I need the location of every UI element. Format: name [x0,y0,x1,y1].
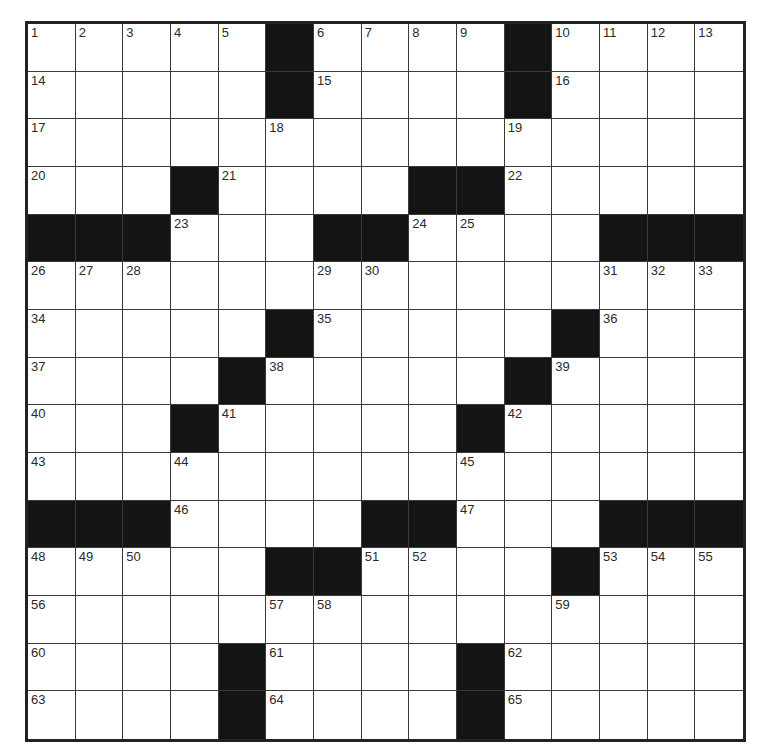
grid-cell[interactable]: 63 [28,691,76,739]
grid-cell[interactable] [171,691,219,739]
grid-cell[interactable] [600,405,648,453]
grid-cell[interactable] [409,596,457,644]
grid-cell[interactable]: 40 [28,405,76,453]
grid-cell[interactable]: 55 [695,548,743,596]
grid-cell[interactable] [409,405,457,453]
grid-cell[interactable]: 34 [28,310,76,358]
grid-cell[interactable]: 3 [123,24,171,72]
grid-cell[interactable] [266,167,314,215]
grid-cell[interactable] [505,310,553,358]
grid-cell[interactable] [552,453,600,501]
grid-cell[interactable] [409,691,457,739]
grid-cell[interactable]: 18 [266,119,314,167]
grid-cell[interactable] [123,644,171,692]
grid-cell[interactable] [123,691,171,739]
grid-cell[interactable] [552,119,600,167]
grid-cell[interactable] [362,453,410,501]
grid-cell[interactable] [457,358,505,406]
grid-cell[interactable] [362,119,410,167]
grid-cell[interactable]: 37 [28,358,76,406]
grid-cell[interactable] [171,119,219,167]
grid-cell[interactable] [171,72,219,120]
grid-cell[interactable]: 46 [171,501,219,549]
grid-cell[interactable] [314,358,362,406]
grid-cell[interactable]: 29 [314,262,362,310]
grid-cell[interactable] [123,596,171,644]
grid-cell[interactable] [76,691,124,739]
grid-cell[interactable] [362,405,410,453]
grid-cell[interactable]: 48 [28,548,76,596]
grid-cell[interactable] [123,72,171,120]
grid-cell[interactable] [505,548,553,596]
grid-cell[interactable] [314,405,362,453]
grid-cell[interactable] [219,548,267,596]
grid-cell[interactable] [219,119,267,167]
grid-cell[interactable]: 25 [457,215,505,263]
grid-cell[interactable] [505,453,553,501]
grid-cell[interactable] [552,262,600,310]
grid-cell[interactable] [362,596,410,644]
grid-cell[interactable] [314,691,362,739]
grid-cell[interactable] [695,119,743,167]
grid-cell[interactable] [695,167,743,215]
grid-cell[interactable]: 13 [695,24,743,72]
grid-cell[interactable] [695,358,743,406]
grid-cell[interactable]: 43 [28,453,76,501]
grid-cell[interactable]: 31 [600,262,648,310]
grid-cell[interactable] [219,453,267,501]
grid-cell[interactable] [648,167,696,215]
grid-cell[interactable] [600,453,648,501]
grid-cell[interactable] [266,405,314,453]
grid-cell[interactable] [76,310,124,358]
grid-cell[interactable]: 54 [648,548,696,596]
grid-cell[interactable] [314,453,362,501]
grid-cell[interactable]: 11 [600,24,648,72]
grid-cell[interactable]: 20 [28,167,76,215]
grid-cell[interactable] [266,215,314,263]
grid-cell[interactable] [76,119,124,167]
grid-cell[interactable] [362,167,410,215]
grid-cell[interactable] [171,358,219,406]
grid-cell[interactable] [648,358,696,406]
grid-cell[interactable] [600,644,648,692]
grid-cell[interactable] [552,644,600,692]
grid-cell[interactable] [123,453,171,501]
grid-cell[interactable] [552,691,600,739]
grid-cell[interactable] [409,453,457,501]
grid-cell[interactable] [505,596,553,644]
grid-cell[interactable] [219,310,267,358]
grid-cell[interactable] [362,310,410,358]
grid-cell[interactable]: 38 [266,358,314,406]
grid-cell[interactable]: 16 [552,72,600,120]
grid-cell[interactable] [266,501,314,549]
grid-cell[interactable] [695,405,743,453]
grid-cell[interactable]: 36 [600,310,648,358]
grid-cell[interactable] [600,691,648,739]
grid-cell[interactable]: 65 [505,691,553,739]
grid-cell[interactable] [362,72,410,120]
grid-cell[interactable]: 14 [28,72,76,120]
grid-cell[interactable] [171,644,219,692]
grid-cell[interactable]: 44 [171,453,219,501]
grid-cell[interactable] [266,262,314,310]
grid-cell[interactable] [648,310,696,358]
grid-cell[interactable]: 41 [219,405,267,453]
grid-cell[interactable] [409,310,457,358]
grid-cell[interactable] [695,453,743,501]
grid-cell[interactable]: 27 [76,262,124,310]
grid-cell[interactable] [695,644,743,692]
grid-cell[interactable]: 15 [314,72,362,120]
grid-cell[interactable] [266,453,314,501]
grid-cell[interactable] [219,262,267,310]
grid-cell[interactable] [409,119,457,167]
grid-cell[interactable] [648,453,696,501]
grid-cell[interactable]: 21 [219,167,267,215]
grid-cell[interactable] [409,358,457,406]
grid-cell[interactable]: 2 [76,24,124,72]
grid-cell[interactable]: 8 [409,24,457,72]
grid-cell[interactable]: 52 [409,548,457,596]
grid-cell[interactable] [505,501,553,549]
grid-cell[interactable] [76,596,124,644]
grid-cell[interactable]: 64 [266,691,314,739]
grid-cell[interactable]: 60 [28,644,76,692]
